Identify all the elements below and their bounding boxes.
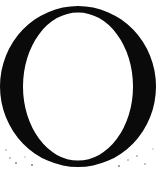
speck: [118, 165, 120, 167]
speck: [136, 155, 138, 157]
speck: [127, 159, 129, 161]
glyph-specimen-canvas: Large black serif capital letter O on a …: [0, 0, 163, 171]
speck: [31, 164, 33, 166]
speck: [144, 163, 146, 165]
speck: [9, 157, 11, 159]
speck: [24, 156, 26, 158]
letter-o-glyph: Large black serif capital letter O on a …: [0, 0, 163, 171]
speck: [152, 148, 154, 150]
speck: [15, 162, 17, 164]
speck: [5, 149, 7, 151]
